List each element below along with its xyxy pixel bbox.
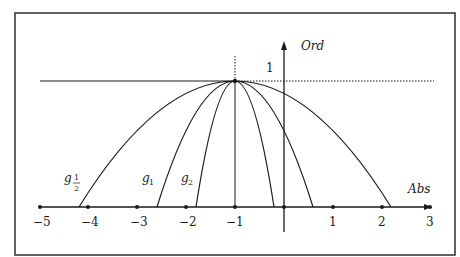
- x-tick-label: −2: [179, 215, 197, 229]
- svg-text:1: 1: [149, 178, 154, 187]
- y-axis-arrow-icon: [281, 41, 287, 50]
- y-axis-label: Ord: [301, 39, 325, 53]
- x-tick-label: −3: [130, 215, 148, 229]
- svg-text:1: 1: [74, 173, 79, 182]
- label-g-1: g 1: [142, 171, 154, 187]
- svg-text:2: 2: [74, 184, 79, 193]
- x-tick-label: 1: [329, 215, 337, 229]
- x-tick-label: 3: [426, 215, 434, 229]
- x-tick-label: −1: [226, 215, 244, 229]
- y-tick-label: 1: [266, 61, 274, 75]
- x-axis-label: Abs: [407, 182, 431, 196]
- x-tick-label: −4: [81, 215, 99, 229]
- x-tick-label: 2: [378, 215, 386, 229]
- svg-text:g: g: [64, 171, 72, 185]
- label-g-half: g 1 2: [64, 171, 80, 193]
- x-tick-label: −5: [33, 215, 51, 229]
- label-g-2: g 2: [181, 171, 193, 187]
- svg-text:2: 2: [188, 178, 193, 187]
- diagram-canvas: −5 −4 −3 −2 −1 1 2 3 1 Ord Abs g 1 2 g 1…: [0, 0, 460, 257]
